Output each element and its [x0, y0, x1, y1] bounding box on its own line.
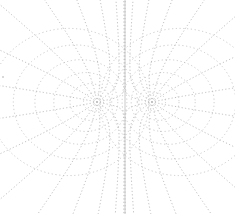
field-line — [154, 105, 235, 196]
equipotential-contour — [35, 60, 127, 145]
field-diagram — [0, 0, 235, 214]
field-line — [0, 84, 94, 101]
field-line — [155, 86, 235, 101]
equipotential-contour — [139, 84, 179, 121]
pole-right — [151, 101, 153, 103]
pole-left — [96, 101, 98, 103]
field-line — [0, 103, 94, 120]
field-line — [130, 0, 150, 100]
field-line — [125, 0, 149, 101]
field-line — [130, 104, 150, 214]
field-line — [154, 8, 235, 99]
field-line — [100, 0, 120, 100]
field-line — [31, 105, 97, 214]
field-line — [153, 105, 219, 214]
equipotential-lines — [0, 28, 235, 175]
field-line — [155, 104, 236, 152]
edge-marker — [2, 76, 4, 78]
equipotential-contour — [70, 84, 110, 121]
field-line — [96, 105, 110, 215]
field-line — [0, 0, 95, 99]
field-line — [69, 105, 100, 214]
field-line — [100, 104, 120, 214]
equipotential-contour — [112, 45, 235, 159]
equipotential-contour — [100, 28, 235, 175]
field-line — [155, 103, 235, 118]
field-line — [100, 0, 124, 101]
equipotential-contour — [13, 45, 137, 159]
equipotential-contour — [122, 60, 214, 145]
field-line — [0, 46, 95, 101]
